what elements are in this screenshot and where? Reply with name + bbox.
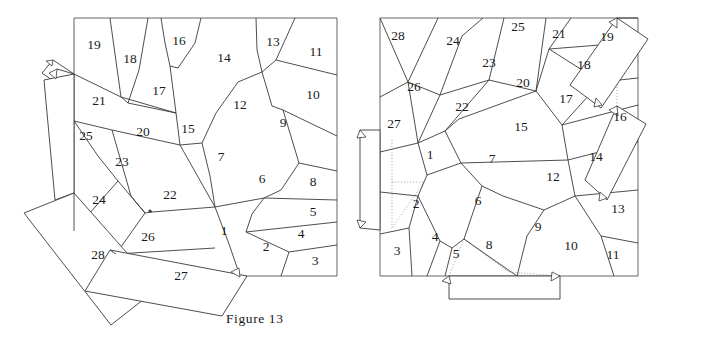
cell-number: 14 bbox=[217, 50, 231, 65]
cell-number: 22 bbox=[455, 99, 469, 114]
cell-number: 15 bbox=[181, 121, 195, 136]
cell-number: 12 bbox=[546, 169, 560, 184]
cell-number: 19 bbox=[87, 37, 101, 52]
cell-number: 23 bbox=[115, 154, 129, 169]
cell-number: 4 bbox=[298, 226, 305, 241]
cell-number: 8 bbox=[486, 237, 493, 252]
cell-number: 6 bbox=[259, 171, 266, 186]
cell-number: 7 bbox=[489, 151, 496, 166]
cell-number: 17 bbox=[152, 83, 166, 98]
figure-page: 1234567891011121314151617181920212223242… bbox=[0, 0, 713, 341]
cell-number: 28 bbox=[91, 247, 105, 262]
cell-number: 5 bbox=[453, 246, 460, 261]
cell-number: 6 bbox=[475, 193, 482, 208]
cell-number: 24 bbox=[92, 192, 106, 207]
figure-14-flap-left bbox=[357, 130, 380, 230]
cell-number: 24 bbox=[446, 33, 460, 48]
cell-number: 14 bbox=[589, 149, 603, 164]
cell-number: 21 bbox=[92, 93, 106, 108]
figure-14-flap-bottom bbox=[442, 272, 560, 299]
cell-number: 2 bbox=[413, 196, 420, 211]
cell-number: 9 bbox=[535, 219, 542, 234]
figure-13: 1234567891011121314151617181920212223242… bbox=[0, 0, 356, 341]
cell-number: 4 bbox=[432, 229, 439, 244]
cell-number: 28 bbox=[391, 28, 405, 43]
figure-13-drawing: 1234567891011121314151617181920212223242… bbox=[0, 0, 356, 341]
cell-number: 7 bbox=[218, 149, 225, 164]
cell-number: 1 bbox=[427, 147, 434, 162]
cell-number: 10 bbox=[306, 87, 320, 102]
cell-number: 3 bbox=[312, 253, 319, 268]
cell-number: 12 bbox=[233, 97, 247, 112]
cell-number: 1 bbox=[221, 223, 228, 238]
figure-14: 1234567891011121314151617181920212223242… bbox=[356, 0, 713, 341]
cell-number: 18 bbox=[577, 57, 591, 72]
cell-number: 8 bbox=[310, 174, 317, 189]
cell-number: 17 bbox=[559, 91, 573, 106]
cell-number: 16 bbox=[613, 109, 627, 124]
cell-number: 3 bbox=[394, 243, 401, 258]
cell-number: 27 bbox=[387, 116, 401, 131]
cell-number: 21 bbox=[552, 26, 566, 41]
cell-number: 15 bbox=[514, 119, 528, 134]
cell-number: 25 bbox=[79, 128, 93, 143]
cell-number: 11 bbox=[607, 247, 620, 262]
cell-number: 27 bbox=[174, 268, 188, 283]
cell-number: 13 bbox=[611, 201, 625, 216]
cell-number: 26 bbox=[407, 79, 421, 94]
figure-13-flap-left bbox=[44, 69, 74, 200]
cell-number: 11 bbox=[310, 44, 323, 59]
figure-13-caption: Figure 13 bbox=[226, 311, 284, 327]
cell-number: 20 bbox=[136, 124, 150, 139]
cell-number: 18 bbox=[123, 51, 137, 66]
cell-number: 23 bbox=[482, 55, 496, 70]
cell-number: 22 bbox=[163, 187, 177, 202]
cell-number: 9 bbox=[280, 115, 287, 130]
cell-number: 16 bbox=[172, 33, 186, 48]
cell-number: 13 bbox=[266, 34, 280, 49]
cell-number: 19 bbox=[600, 29, 614, 44]
cell-number: 20 bbox=[516, 75, 530, 90]
cell-number: 10 bbox=[564, 238, 578, 253]
cell-number: 2 bbox=[263, 239, 270, 254]
cell-number: 26 bbox=[141, 229, 155, 244]
cell-number: 25 bbox=[511, 19, 525, 34]
figure-14-drawing: 1234567891011121314151617181920212223242… bbox=[356, 0, 713, 341]
cell-number: 5 bbox=[310, 204, 317, 219]
